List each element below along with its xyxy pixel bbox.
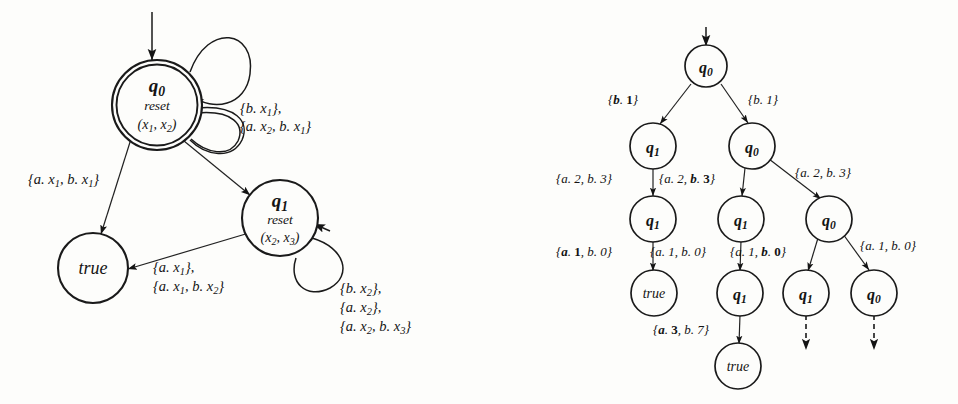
- right-edge-root-left: [660, 84, 691, 124]
- right-edge-l1right-down: [742, 168, 745, 196]
- left-node-true-label: true: [79, 258, 108, 278]
- left-label-q1-true: {a. x1},: [153, 259, 194, 277]
- right-edge-l3a-down: [739, 315, 740, 344]
- right-label-l1-mid: {a. 2, b. 3}: [659, 171, 716, 186]
- left-diagram-group: q0 reset (x1, x2) q1 reset (x2, x3) true…: [28, 12, 411, 336]
- left-label-q1-self-line3: {a. x2, b. x3}: [340, 318, 411, 336]
- right-node-l4-true-label: true: [727, 359, 750, 374]
- left-label-q0-self-line2: {a. x2, b. x1}: [240, 118, 311, 136]
- left-label-q0-self: {b. x1},: [240, 100, 281, 118]
- figure-canvas: q0 reset (x1, x2) q1 reset (x2, x3) true…: [0, 0, 958, 404]
- right-label-l2-a: {a. 1, b. 0}: [556, 244, 613, 259]
- right-edge-l2c-down: [808, 238, 818, 271]
- right-label-l2-b: {a. 1, b. 0}: [650, 244, 707, 259]
- right-label-l1-left: {a. 2, b. 3}: [556, 171, 613, 186]
- right-diagram-group: q0 q1 q0 q1 q1 q0 true q1 q1 q0 true {b.…: [556, 27, 917, 389]
- automaton-figure: q0 reset (x1, x2) q1 reset (x2, x3) true…: [0, 0, 958, 404]
- left-node-q0-clocks: (x1, x2): [138, 117, 177, 134]
- right-label-l2-d: {a. 1, b. 0}: [860, 238, 917, 253]
- right-node-l3-true-label: true: [643, 286, 666, 301]
- right-label-l3-a: {a. 3, b. 7}: [653, 322, 710, 337]
- left-label-q1-self-line2: {a. x2},: [340, 299, 381, 317]
- left-node-q1-clocks: (x2, x3): [261, 230, 300, 247]
- left-label-q0-true: {a. x1, b. x1}: [28, 171, 99, 189]
- right-label-root-left: {b. 1}: [608, 92, 639, 107]
- left-node-q0-reset: reset: [144, 98, 171, 113]
- left-edge-q0-q1: [184, 141, 250, 195]
- right-label-root-right: {b. 1}: [748, 92, 779, 107]
- right-label-l2-c: {a. 1, b. 0}: [730, 244, 787, 259]
- right-edge-root-right: [721, 84, 748, 123]
- left-label-q1-true-line2: {a. x1, b. x2}: [153, 278, 224, 296]
- left-edge-q0-true: [101, 139, 131, 234]
- right-label-l1-right: {a. 2, b. 3}: [795, 165, 852, 180]
- left-node-q1-reset: reset: [267, 212, 294, 227]
- left-label-q1-self: {b. x2},: [340, 280, 381, 298]
